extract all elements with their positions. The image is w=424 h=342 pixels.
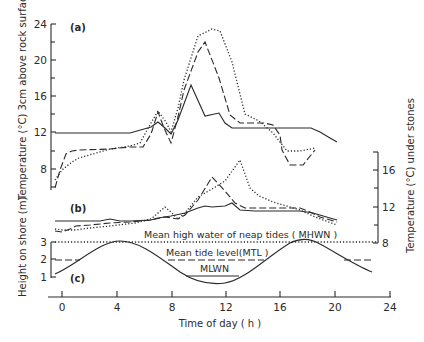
a-tick-20: 20 — [34, 54, 47, 66]
panel-c-label: (c) — [70, 273, 85, 284]
panel-c-y-axis-title: Height on shore (m) — [17, 197, 28, 297]
mtl-label: Mean tide level(MTL ) — [166, 247, 268, 258]
x-axis-title: Time of day ( h ) — [178, 318, 262, 329]
panel-b-dashed-series — [55, 177, 337, 232]
panel-a-solid-series — [55, 85, 337, 142]
x-tick-0: 0 — [59, 301, 66, 313]
panel-b-y-axis-title: Temperature (°C) under stones — [405, 98, 416, 254]
c-tick-3: 3 — [40, 236, 47, 248]
panel-a-dotted-series — [55, 29, 315, 180]
b-tick-12: 12 — [382, 201, 395, 213]
panel-b-label: (b) — [70, 203, 86, 214]
tidal-temperature-chart: 24 20 16 12 8 Temperature (°C) 3cm above… — [0, 0, 424, 342]
a-tick-24: 24 — [34, 18, 48, 30]
x-axis: 0 4 8 12 16 20 24 — [48, 291, 397, 313]
x-tick-4: 4 — [114, 301, 121, 313]
a-tick-16: 16 — [34, 90, 48, 102]
panel-a-dashed-series — [55, 42, 315, 188]
panel-b-solid-series — [55, 203, 337, 221]
x-tick-12: 12 — [219, 301, 232, 313]
b-tick-8: 8 — [382, 237, 389, 249]
x-tick-8: 8 — [169, 301, 176, 313]
mhwn-label: Mean high water of neap tides ( MHWN ) — [144, 229, 337, 240]
panel-a-label: (a) — [70, 22, 86, 33]
panel-b-dotted-series — [55, 160, 337, 230]
x-tick-20: 20 — [328, 301, 341, 313]
panel-c-y-axis: 3 2 1 — [40, 236, 56, 283]
tide-curve — [55, 239, 372, 283]
x-tick-24: 24 — [383, 301, 397, 313]
mlwn-label: MLWN — [200, 263, 229, 274]
x-tick-16: 16 — [273, 301, 287, 313]
panel-a-y-axis-title: Temperature (°C) 3cm above rock surface — [17, 0, 28, 201]
panel-b-y-axis: 16 12 8 — [373, 152, 396, 249]
a-tick-12: 12 — [34, 126, 47, 138]
b-tick-16: 16 — [382, 164, 396, 176]
panel-a-y-axis: 24 20 16 12 8 — [34, 18, 56, 190]
a-tick-8: 8 — [40, 163, 47, 175]
c-tick-1: 1 — [40, 271, 47, 283]
c-tick-2: 2 — [40, 253, 47, 265]
